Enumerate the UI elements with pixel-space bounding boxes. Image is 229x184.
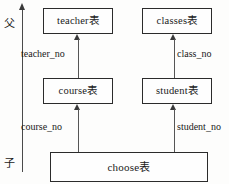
- arrow-shaft: [78, 39, 79, 78]
- entity-box-classes[interactable]: classes表: [142, 8, 212, 34]
- axis-label-parent: 父: [4, 18, 15, 29]
- entity-box-student[interactable]: student表: [142, 78, 212, 104]
- arrow-shaft: [174, 109, 175, 152]
- arrow-shaft: [174, 39, 175, 78]
- axis-label-child: 子: [4, 158, 15, 169]
- entity-box-course[interactable]: course表: [43, 78, 113, 104]
- relation-label-course-no: course_no: [21, 122, 62, 132]
- arrow-shaft: [78, 109, 79, 152]
- relation-label-class-no: class_no: [177, 49, 211, 59]
- entity-label-course: course表: [59, 86, 98, 97]
- entity-label-choose: choose表: [108, 162, 151, 173]
- relation-label-teacher-no: teacher_no: [21, 49, 65, 59]
- axis-arrowhead-icon: [19, 3, 25, 10]
- entity-label-classes: classes表: [157, 16, 198, 27]
- er-relationship-diagram: 父 子 teacher表 classes表 course表 student表 c…: [0, 0, 229, 184]
- entity-label-teacher: teacher表: [57, 16, 99, 27]
- parent-child-axis-line: [22, 8, 23, 172]
- relation-label-student-no: student_no: [177, 122, 221, 132]
- entity-box-teacher[interactable]: teacher表: [43, 8, 113, 34]
- entity-box-choose[interactable]: choose表: [50, 152, 208, 182]
- entity-label-student: student表: [156, 86, 198, 97]
